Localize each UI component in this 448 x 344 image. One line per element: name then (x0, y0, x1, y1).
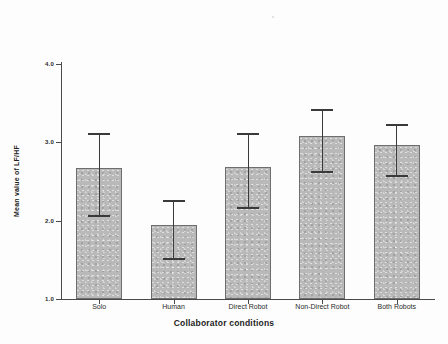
error-bar-cap-lower (386, 175, 408, 177)
y-axis-tick-label: 4.0 (36, 61, 54, 67)
y-axis-tick-label: 1.0 (36, 296, 54, 302)
error-bar-line (99, 133, 100, 215)
error-bar-cap-upper (163, 200, 185, 202)
y-axis-tick-label: 3.0 (36, 139, 54, 145)
error-bar-line (322, 109, 323, 172)
y-axis-tick-label: 2.0 (36, 218, 54, 224)
error-bar-cap-upper (311, 109, 333, 111)
error-bar-cap-upper (88, 133, 110, 135)
y-axis-tick (56, 299, 62, 300)
error-bar-cap-lower (237, 207, 259, 209)
x-axis-tick-label: Non-Direct Robot (295, 303, 349, 310)
x-axis-title: Collaborator conditions (0, 318, 448, 328)
error-bar-line (173, 200, 174, 258)
error-bar-line (396, 124, 397, 176)
error-bar-cap-lower (163, 258, 185, 260)
x-axis-tick-label: Both Robots (378, 303, 417, 310)
x-axis-tick-label: Solo (92, 303, 106, 310)
x-axis-tick-label: Human (162, 303, 185, 310)
plot-area (62, 64, 434, 298)
scan-artifact (272, 16, 274, 18)
error-bar-cap-upper (237, 133, 259, 135)
y-axis-title: Mean value of LF/HF (13, 145, 20, 217)
error-bar-cap-lower (88, 215, 110, 217)
bar-chart-figure: Mean value of LF/HF Collaborator conditi… (0, 0, 448, 344)
x-axis-tick-label: Direct Robot (229, 303, 268, 310)
error-bar-cap-lower (311, 171, 333, 173)
error-bar-cap-upper (386, 124, 408, 126)
error-bar-line (248, 133, 249, 207)
